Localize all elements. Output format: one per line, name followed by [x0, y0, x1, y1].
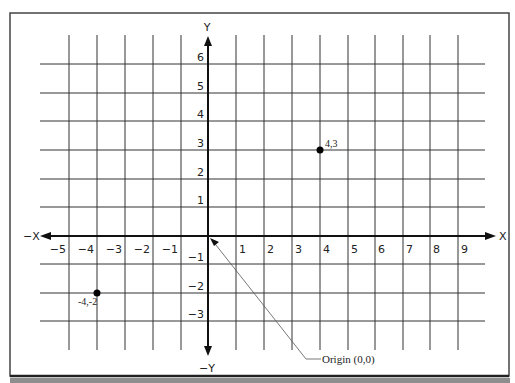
x-tick-label: −2	[134, 243, 150, 256]
y-tick-label: 3	[197, 137, 204, 150]
x-tick-label: 7	[406, 243, 413, 256]
x-tick-label: −5	[50, 243, 66, 256]
y-tick-label: −2	[188, 280, 204, 293]
x-tick-label: −3	[106, 243, 122, 256]
x-axis-label: X	[499, 230, 507, 243]
y-tick-label: 2	[197, 166, 204, 179]
x-tick-label: 2	[267, 243, 274, 256]
x-tick-label: −1	[162, 243, 178, 256]
y-axis-label: Y	[203, 21, 211, 34]
origin-callout-label: Origin (0,0)	[322, 353, 375, 366]
figure-frame	[10, 13, 509, 376]
x-tick-label: 6	[378, 243, 385, 256]
negative-y-axis-label: −Y	[199, 362, 215, 375]
x-tick-label: 5	[351, 243, 358, 256]
y-tick-label: −1	[188, 251, 204, 264]
x-tick-label: 3	[295, 243, 302, 256]
y-tick-label: 1	[197, 194, 204, 207]
y-tick-label: −3	[188, 308, 204, 321]
x-tick-label: −4	[78, 243, 94, 256]
x-tick-label: 1	[239, 243, 246, 256]
negative-x-axis-label: −X	[23, 230, 40, 243]
coordinate-plane-figure: Y −Y X −X −5 −4 −3 −2 −1 1 2 3 4 5 6 7 8…	[0, 0, 515, 383]
y-tick-label: 4	[197, 108, 204, 121]
point-label: 4,3	[325, 138, 338, 149]
x-tick-label: 4	[323, 243, 330, 256]
y-tick-label: 5	[197, 80, 204, 93]
y-tick-label: 6	[197, 51, 204, 64]
point-label: -4,-2	[78, 296, 97, 307]
bottom-gray-band	[10, 378, 510, 383]
coordinate-plane: Y −Y X −X −5 −4 −3 −2 −1 1 2 3 4 5 6 7 8…	[0, 0, 515, 383]
x-tick-label: 8	[433, 243, 440, 256]
x-tick-label: 9	[461, 243, 468, 256]
